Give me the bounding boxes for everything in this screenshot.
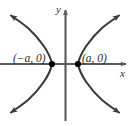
x-axis-label: x [120, 68, 125, 79]
right-vertex-point [75, 61, 81, 67]
hyperbola-figure: y x (−a, 0) (a, 0) [0, 0, 133, 126]
right-vertex-label: (a, 0) [82, 53, 107, 65]
hyperbola-right-branch-lower [78, 64, 119, 113]
hyperbola-left-branch-lower [11, 64, 52, 113]
y-axis-label: y [56, 4, 61, 15]
left-vertex-label: (−a, 0) [13, 53, 46, 65]
left-vertex-point [49, 61, 55, 67]
